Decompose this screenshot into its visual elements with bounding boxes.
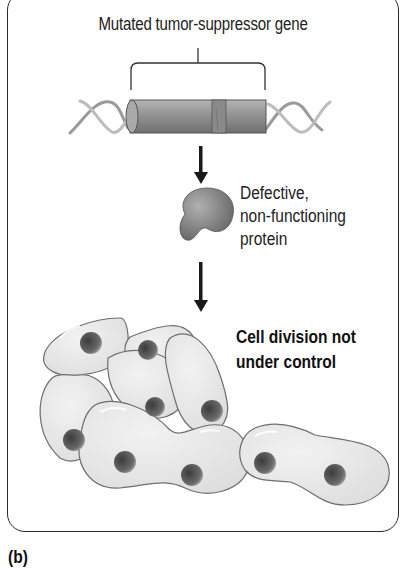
- cells-label-line: Cell division not: [236, 324, 356, 349]
- arrow-down-icon: [194, 146, 208, 184]
- panel-label: (b): [8, 546, 28, 568]
- gene-cylinder-icon: [126, 100, 266, 133]
- protein-label-line: non-functioning: [240, 205, 346, 228]
- protein-label: Defective, non-functioning protein: [240, 182, 346, 251]
- protein-label-line: protein: [240, 228, 346, 251]
- protein-icon: [180, 188, 234, 240]
- cells-label: Cell division not under control: [236, 324, 356, 374]
- diagram-artwork: [0, 0, 406, 571]
- cells-label-line: under control: [236, 349, 356, 374]
- arrow-down-icon: [194, 262, 208, 312]
- protein-label-line: Defective,: [240, 182, 346, 205]
- gene-bracket-icon: [131, 48, 265, 90]
